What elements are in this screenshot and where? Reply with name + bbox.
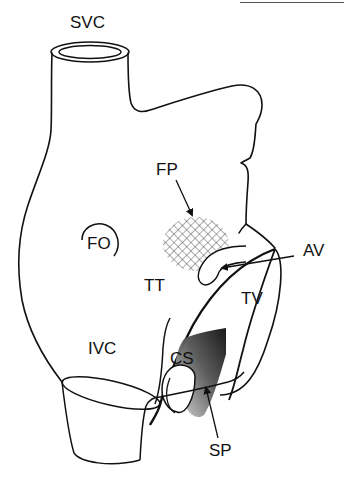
atrium-outline [19, 53, 275, 382]
label-ivc: IVC [88, 340, 116, 357]
label-fo: FO [87, 235, 111, 252]
label-av: AV [303, 242, 324, 259]
label-tv: TV [241, 290, 263, 307]
label-fp: FP [156, 161, 178, 178]
label-cs: CS [170, 350, 194, 367]
label-tt: TT [144, 277, 165, 294]
label-sp: SP [209, 442, 232, 459]
fp-arrow [176, 180, 192, 215]
svc-opening [51, 42, 129, 62]
label-svc: SVC [70, 14, 105, 31]
right-atrium-diagram [0, 0, 346, 481]
